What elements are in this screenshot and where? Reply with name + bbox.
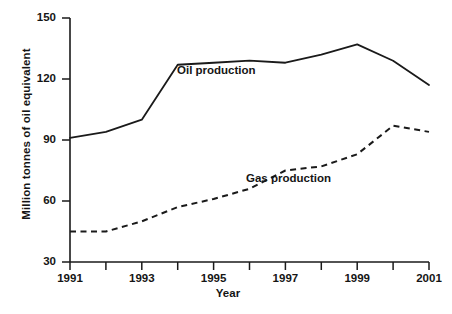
- series-line-oil-production: [70, 44, 429, 138]
- x-axis-title: Year: [193, 287, 263, 299]
- chart-plot-area: [0, 0, 452, 314]
- y-axis-title: Million tonnes of oil equivalent: [20, 34, 32, 234]
- x-tick-label-2001: 2001: [409, 272, 449, 284]
- x-tick-label-1995: 1995: [194, 272, 234, 284]
- x-tick-label-1991: 1991: [50, 272, 90, 284]
- y-tick-label-30: 30: [26, 255, 56, 267]
- x-tick-label-1999: 1999: [337, 272, 377, 284]
- x-tick-marks: [70, 262, 429, 270]
- series-label-oil-production: Oil production: [177, 64, 256, 76]
- series-label-gas-production: Gas production: [246, 172, 331, 184]
- y-tick-label-150: 150: [26, 11, 56, 23]
- x-tick-label-1993: 1993: [122, 272, 162, 284]
- line-chart: 150 120 90 60 30 1991 1993 1995 1997 199…: [0, 0, 452, 314]
- x-tick-label-1997: 1997: [265, 272, 305, 284]
- y-tick-marks: [62, 18, 70, 262]
